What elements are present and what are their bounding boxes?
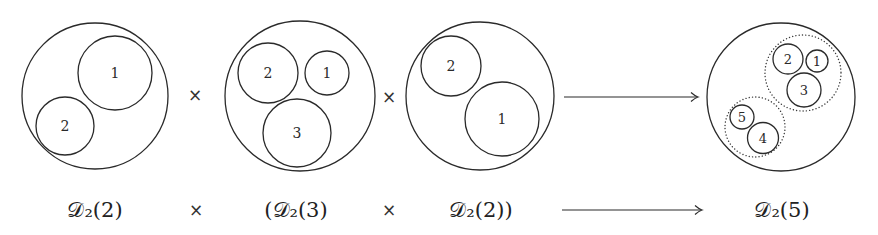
space-label: 𝒟₂(2) <box>67 198 122 222</box>
arrow-top <box>564 93 698 102</box>
times-operator-label: × <box>189 200 203 220</box>
inner-disk: 2 <box>773 44 803 74</box>
inner-disk-label: 2 <box>264 65 273 81</box>
space-label: 𝒟₂(2)) <box>449 198 512 222</box>
inner-disk: 5 <box>730 105 754 129</box>
times-operator: × <box>382 87 396 107</box>
inner-disk: 2 <box>36 97 94 155</box>
operad-composition-diagram: 122132121354 ×× 𝒟₂(2)×(𝒟₂(3)×𝒟₂(2))𝒟₂(5) <box>0 0 878 235</box>
diagram-canvas: 122132121354 ×× 𝒟₂(2)×(𝒟₂(3)×𝒟₂(2))𝒟₂(5) <box>0 0 878 235</box>
inner-disk-label: 1 <box>111 65 120 81</box>
disk-configuration-B: 213 <box>225 21 375 171</box>
inner-disk-label: 2 <box>447 58 456 74</box>
space-label: (𝒟₂(3) <box>264 198 327 222</box>
inner-disk-label: 3 <box>293 125 302 141</box>
inner-disk-label: 3 <box>800 83 808 98</box>
disks-layer: 122132121354 <box>22 21 855 171</box>
outer-disk <box>225 21 375 171</box>
inner-disk-label: 1 <box>498 111 507 127</box>
inner-disk: 1 <box>465 82 539 156</box>
disk-configuration-A: 12 <box>22 23 168 169</box>
inner-disk: 2 <box>421 36 481 96</box>
disk-configuration-D: 21354 <box>707 23 855 171</box>
times-operator-label: × <box>382 200 396 220</box>
inner-disk-label: 1 <box>813 54 821 69</box>
space-label: 𝒟₂(5) <box>754 198 809 222</box>
inner-disk: 4 <box>748 123 779 154</box>
disk-configuration-C: 21 <box>406 22 554 170</box>
arrow-bottom <box>562 206 702 215</box>
inner-disk-label: 1 <box>323 65 332 81</box>
inner-disk-label: 5 <box>738 110 746 125</box>
dotted-group-circle <box>725 97 785 157</box>
outer-disk <box>22 23 168 169</box>
inner-disk: 1 <box>78 36 152 110</box>
inner-disk: 3 <box>787 73 821 107</box>
inner-disk: 2 <box>238 43 298 103</box>
inner-disk-label: 2 <box>61 118 70 134</box>
inner-disk: 1 <box>806 50 828 72</box>
inner-disk-label: 2 <box>784 52 792 67</box>
inner-disk: 1 <box>305 51 349 95</box>
inner-disk-label: 4 <box>759 131 767 146</box>
times-operator: × <box>188 85 202 105</box>
operators-layer: ×× <box>188 85 396 107</box>
inner-disk: 3 <box>263 99 331 167</box>
